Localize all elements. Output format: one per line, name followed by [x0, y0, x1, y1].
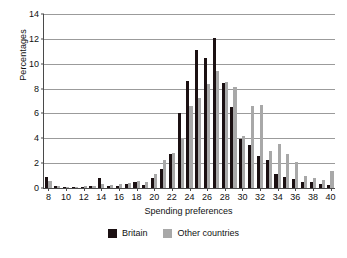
legend-item: Other countries [163, 228, 239, 238]
x-tick-label: 38 [308, 192, 318, 202]
bar-other-countries [128, 183, 131, 188]
x-tick-mark [331, 188, 332, 191]
legend-swatch-icon [108, 229, 117, 238]
bar-other-countries [163, 160, 166, 188]
bar-group [70, 14, 79, 188]
bar-other-countries [304, 176, 307, 188]
x-tick-mark [225, 188, 226, 191]
x-tick-mark [242, 188, 243, 191]
y-tick-label: 6 [34, 108, 44, 118]
x-tick-label: 24 [184, 192, 194, 202]
x-tick-mark [190, 188, 191, 191]
bar-group [264, 14, 273, 188]
bar-other-countries [207, 84, 210, 188]
bar-group [317, 14, 326, 188]
x-tick-label: 16 [114, 192, 124, 202]
bar-group [220, 14, 229, 188]
y-tick-label: 4 [34, 133, 44, 143]
bar-group [62, 14, 71, 188]
bar-group [150, 14, 159, 188]
bar-group [194, 14, 203, 188]
y-tick-label: 12 [29, 34, 44, 44]
legend-item: Britain [108, 228, 148, 238]
bar-group [132, 14, 141, 188]
bar-other-countries [242, 136, 245, 188]
bar-group [159, 14, 168, 188]
x-tick-label: 36 [290, 192, 300, 202]
y-tick-label: 0 [34, 183, 44, 193]
bar-group [326, 14, 335, 188]
chart-legend: BritainOther countries [0, 228, 347, 238]
bar-group [97, 14, 106, 188]
bar-other-countries [251, 106, 254, 188]
bar-group [247, 14, 256, 188]
x-axis-title: Spending preferences [43, 206, 334, 216]
bar-group [256, 14, 265, 188]
bar-series-container [44, 14, 335, 188]
x-tick-mark [154, 188, 155, 191]
x-tick-label: 26 [202, 192, 212, 202]
bar-group [106, 14, 115, 188]
x-tick-label: 22 [167, 192, 177, 202]
legend-swatch-icon [163, 229, 172, 238]
bar-other-countries [286, 154, 289, 188]
bar-group [203, 14, 212, 188]
x-tick-mark [295, 188, 296, 191]
bar-group [211, 14, 220, 188]
y-tick-label: 8 [34, 84, 44, 94]
bar-other-countries [48, 181, 51, 188]
x-tick-label: 8 [46, 192, 51, 202]
bar-group [273, 14, 282, 188]
bar-group [53, 14, 62, 188]
plot-area: 02468101214 8101214161820222426283032343… [43, 14, 335, 189]
x-tick-mark [66, 188, 67, 191]
bar-other-countries [198, 98, 201, 188]
x-tick-mark [48, 188, 49, 191]
bar-other-countries [216, 71, 219, 188]
bar-other-countries [278, 144, 281, 188]
bar-group [229, 14, 238, 188]
x-tick-mark [119, 188, 120, 191]
x-tick-label: 32 [255, 192, 265, 202]
y-tick-label: 14 [29, 9, 44, 19]
bar-group [282, 14, 291, 188]
bar-group [238, 14, 247, 188]
x-tick-label: 40 [326, 192, 336, 202]
bar-group [185, 14, 194, 188]
x-tick-mark [278, 188, 279, 191]
x-tick-mark [207, 188, 208, 191]
bar-other-countries [110, 185, 113, 188]
bar-other-countries [322, 180, 325, 188]
bar-other-countries [313, 178, 316, 188]
legend-label: Other countries [177, 228, 239, 238]
x-tick-label: 34 [273, 192, 283, 202]
bar-other-countries [295, 162, 298, 188]
bar-other-countries [269, 151, 272, 188]
y-tick-label: 10 [29, 59, 44, 69]
bar-other-countries [233, 87, 236, 188]
y-axis-title: Percentages [18, 0, 28, 110]
x-tick-mark [101, 188, 102, 191]
bar-other-countries [92, 186, 95, 188]
x-tick-label: 14 [96, 192, 106, 202]
bar-other-countries [225, 82, 228, 188]
bar-other-countries [181, 138, 184, 188]
bar-other-countries [172, 153, 175, 188]
x-tick-label: 20 [149, 192, 159, 202]
x-tick-mark [313, 188, 314, 191]
bar-group [167, 14, 176, 188]
x-tick-mark [84, 188, 85, 191]
bar-other-countries [154, 174, 157, 188]
bar-group [291, 14, 300, 188]
x-tick-label: 12 [79, 192, 89, 202]
x-tick-label: 30 [237, 192, 247, 202]
y-tick-label: 2 [34, 158, 44, 168]
bar-other-countries [137, 181, 140, 188]
x-tick-mark [260, 188, 261, 191]
bar-other-countries [145, 182, 148, 188]
x-tick-label: 18 [132, 192, 142, 202]
bar-chart-figure: Percentages 02468101214 8101214161820222… [0, 0, 347, 258]
bar-group [115, 14, 124, 188]
bar-group [79, 14, 88, 188]
bar-other-countries [330, 171, 333, 188]
